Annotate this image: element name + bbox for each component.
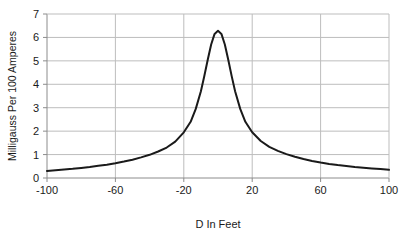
y-tick-label: 5 — [33, 55, 39, 67]
x-tick-label: 20 — [246, 184, 258, 196]
y-tick-label: 1 — [33, 149, 39, 161]
y-axis-title: Milligauss Per 100 Amperes — [6, 31, 18, 161]
y-tick-label: 4 — [33, 78, 39, 90]
x-tick-label: -60 — [107, 184, 123, 196]
y-tick-label: 7 — [33, 8, 39, 20]
x-tick-label: -20 — [176, 184, 192, 196]
y-tick-label: 3 — [33, 102, 39, 114]
x-tick-label: -100 — [36, 184, 58, 196]
y-tick-label: 2 — [33, 125, 39, 137]
y-tick-label: 0 — [33, 172, 39, 184]
chart-background — [0, 0, 409, 235]
chart-container: 01234567 -100-60-202060100 D In Feet Mil… — [0, 0, 409, 235]
line-chart: 01234567 -100-60-202060100 D In Feet Mil… — [0, 0, 409, 235]
y-tick-label: 6 — [33, 31, 39, 43]
x-tick-label: 100 — [380, 184, 398, 196]
x-axis-title: D In Feet — [195, 218, 240, 230]
x-tick-label: 60 — [314, 184, 326, 196]
